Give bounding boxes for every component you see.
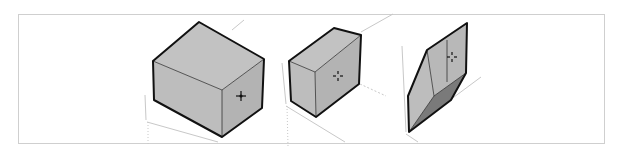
box-2 bbox=[282, 14, 393, 146]
box-1 bbox=[145, 20, 264, 146]
scene bbox=[0, 0, 618, 154]
box-3 bbox=[402, 23, 481, 142]
